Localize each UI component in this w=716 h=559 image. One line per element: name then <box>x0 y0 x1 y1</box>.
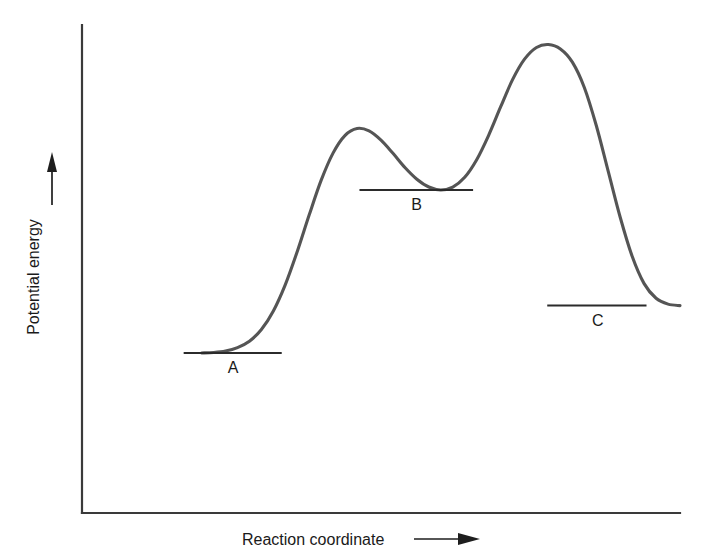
x-axis-label: Reaction coordinate <box>242 531 384 549</box>
level-label-c: C <box>592 313 604 329</box>
y-axis-label: Potential energy <box>25 147 43 407</box>
level-label-b: B <box>411 197 422 213</box>
y-axis-arrow-icon <box>47 152 57 205</box>
y-axis-label-wrap: Potential energy <box>0 0 40 559</box>
x-axis-arrow-icon <box>414 533 480 545</box>
reaction-coordinate-diagram: A B C Potential energy Reaction coordina… <box>0 0 716 559</box>
plot-area <box>0 0 716 559</box>
level-label-a: A <box>228 360 239 376</box>
potential-energy-curve <box>202 44 680 352</box>
